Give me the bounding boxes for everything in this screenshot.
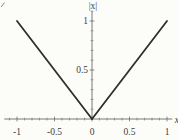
x-axis-label: x	[174, 115, 178, 125]
plot-canvas: |x| x -1-0.500.510.51	[0, 0, 178, 140]
absolute-value-plot: |x| x -1-0.500.510.51	[0, 0, 178, 140]
x-tick-label: -0.5	[47, 127, 62, 137]
y-tick-label: 0.5	[76, 65, 88, 75]
x-tick-label: 0.5	[124, 127, 136, 137]
axes-group	[4, 11, 172, 119]
labels-group: |x| x -1-0.500.510.51	[13, 1, 178, 137]
x-tick-label: 1	[165, 127, 170, 137]
abs-right-branch	[92, 21, 167, 119]
y-axis-label: |x|	[89, 1, 98, 11]
x-tick-label: -1	[13, 127, 21, 137]
scan-artifact	[1, 3, 4, 8]
ticks-group	[10, 11, 168, 121]
x-tick-label: 0	[90, 127, 95, 137]
y-tick-label: 1	[83, 16, 88, 26]
